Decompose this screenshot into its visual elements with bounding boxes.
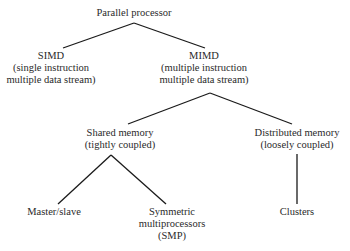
node-smp-line-3: (SMP): [139, 230, 206, 242]
node-mimd-desc-line-2: multiple data stream): [159, 74, 248, 86]
node-simd-desc-line-1: (single instruction: [6, 62, 95, 74]
edge-shared-masterslave: [58, 155, 111, 204]
node-smp: Symmetric multiprocessors (SMP): [139, 206, 206, 242]
node-master-slave-title: Master/slave: [27, 206, 81, 218]
node-shared-memory: Shared memory (tightly coupled): [85, 127, 155, 151]
node-mimd-title: MIMD: [159, 50, 248, 62]
node-clusters: Clusters: [280, 206, 314, 218]
edge-mimd-shared: [128, 93, 210, 124]
node-smp-line-1: Symmetric: [139, 206, 206, 218]
node-simd: SIMD (single instruction multiple data s…: [6, 50, 95, 86]
node-mimd: MIMD (multiple instruction multiple data…: [159, 50, 248, 86]
edge-shared-smp: [111, 155, 166, 204]
edge-mimd-distributed: [210, 93, 292, 124]
node-shared-memory-desc: (tightly coupled): [85, 139, 155, 151]
node-clusters-title: Clusters: [280, 206, 314, 218]
node-shared-memory-title: Shared memory: [85, 127, 155, 139]
node-simd-desc-line-2: multiple data stream): [6, 74, 95, 86]
node-mimd-desc-line-1: (multiple instruction: [159, 62, 248, 74]
edge-root-simd: [63, 23, 134, 48]
node-smp-line-2: multiprocessors: [139, 218, 206, 230]
node-distributed-memory: Distributed memory (loosely coupled): [255, 127, 340, 151]
edge-root-mimd: [134, 23, 205, 48]
node-distributed-memory-title: Distributed memory: [255, 127, 340, 139]
node-parallel-processor-line-1: Parallel processor: [97, 7, 172, 19]
node-parallel-processor: Parallel processor: [97, 7, 172, 19]
node-distributed-memory-desc: (loosely coupled): [255, 139, 340, 151]
node-simd-title: SIMD: [6, 50, 95, 62]
node-master-slave: Master/slave: [27, 206, 81, 218]
